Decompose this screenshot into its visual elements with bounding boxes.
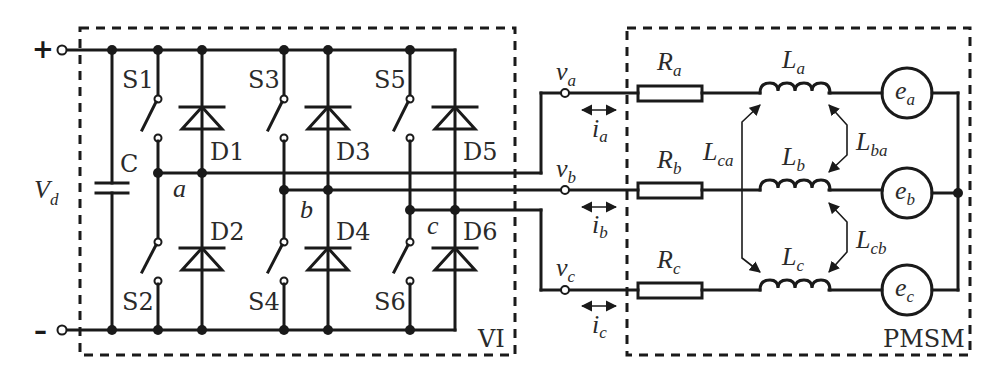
current-ib-label: ib [592,210,608,242]
switch-s6-label: S6 [374,288,406,316]
mutual-lca-label: Lca [702,137,734,170]
switch-s2-label: S2 [122,288,154,316]
switch-s4-label: S4 [248,288,280,316]
resistor-ra [638,86,702,101]
diode-d2-label: D2 [210,218,245,246]
terminal-va [561,89,569,97]
inverter-box-label: VI [477,325,505,353]
diode-d3-label: D3 [336,138,371,166]
mutual-arrow-ba [829,105,847,172]
minus-sign: – [34,316,47,346]
resistor-rb [638,183,702,198]
diode-d1-label: D1 [210,138,245,166]
current-ic-label: ic [592,310,607,342]
resistor-rb-label: Rb [656,145,681,178]
voltage-va-label: va [556,57,576,90]
diode-d5-label: D5 [463,138,498,166]
phase-node-a-label: a [173,174,186,203]
diode-d6-label: D6 [463,218,498,246]
phase-node-c-label: c [427,211,439,240]
terminal-vc [561,286,569,294]
current-ia-label: ia [592,114,608,146]
dc-voltage-label: Vd [34,175,59,209]
diode-d4-label: D4 [336,218,371,246]
terminal-vb [561,186,569,194]
plus-terminal [58,46,67,55]
switch-s5-label: S5 [374,66,406,94]
inductor-lb [760,180,830,190]
resistor-ra-label: Ra [656,47,681,80]
inductor-la-label: La [781,45,805,78]
emf-eb-label: eb [895,176,915,209]
mutual-lba-label: Lba [855,127,887,160]
switch-s3-label: S3 [248,66,280,94]
resistor-rc-label: Rc [656,245,681,278]
mutual-arrow-cb [829,203,847,272]
minus-terminal [58,326,67,335]
capacitor-label: C [120,150,138,178]
switch-s1-label: S1 [122,66,154,94]
emf-ec-label: ec [895,273,915,306]
inductor-la [760,83,830,93]
inductor-lc-label: Lc [781,242,804,275]
resistor-rc [638,283,702,298]
voltage-vb-label: vb [556,154,576,187]
plus-sign: + [32,34,54,64]
phase-node-b-label: b [300,195,313,224]
circuit-diagram: + – Vd C S1 S2 D1 D2 a [0,0,1007,376]
inductor-lb-label: Lb [781,142,805,175]
pmsm-box-label: PMSM [883,325,965,353]
emf-ea-label: ea [895,76,915,109]
inductor-lc [760,280,830,290]
voltage-vc-label: vc [556,253,576,286]
mutual-lcb-label: Lcb [855,225,887,258]
